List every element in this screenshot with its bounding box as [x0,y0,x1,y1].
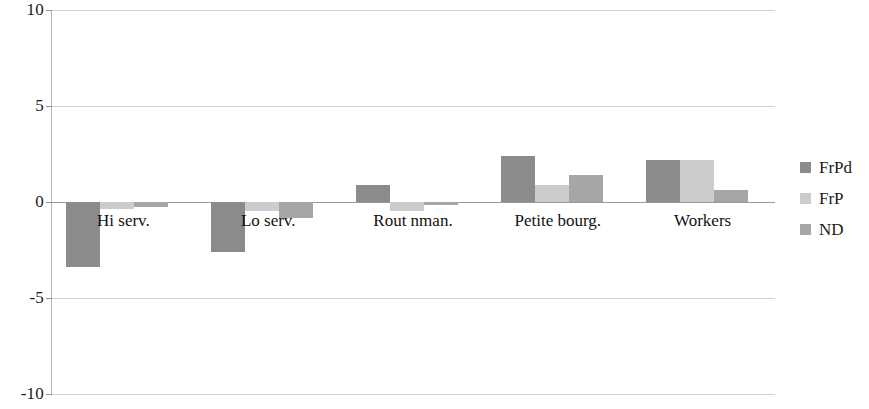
category-label: Rout nman. [341,212,486,230]
bar-group [356,10,458,394]
bar-frpd-4 [646,160,680,202]
legend: FrPdFrPND [800,152,869,245]
bar-nd-2 [424,202,458,205]
bar-group [501,10,603,394]
y-axis-tick [46,298,52,299]
bar-frp-0 [100,202,134,209]
y-axis-tick-label: 5 [2,97,44,114]
y-axis-tick-label: 10 [2,1,44,18]
bar-frp-2 [390,202,424,211]
bar-nd-3 [569,175,603,202]
y-axis-tick-label: -10 [2,385,44,402]
legend-swatch-icon [800,162,811,173]
bar-group [211,10,313,394]
bar-frpd-2 [356,185,390,202]
bar-frp-1 [245,202,279,211]
bar-group [646,10,748,394]
y-axis-tick-label: 0 [2,193,44,210]
bar-frp-3 [535,185,569,202]
gridline [51,394,775,395]
bar-group [66,10,168,394]
category-label: Lo serv. [196,212,341,230]
y-axis-tick [46,394,52,395]
legend-swatch-icon [800,224,811,235]
bar-nd-4 [714,190,748,202]
legend-swatch-icon [800,193,811,204]
legend-label: FrPd [819,159,852,176]
y-axis-tick-label: -5 [2,289,44,306]
bar-nd-0 [134,202,168,207]
bar-frpd-3 [501,156,535,202]
bar-chart: 1050-5-10 Hi serv.Lo serv.Rout nman.Peti… [0,0,869,409]
legend-label: ND [819,221,844,238]
y-axis-tick [46,106,52,107]
legend-label: FrP [819,190,844,207]
category-label: Hi serv. [51,212,196,230]
y-axis-labels: 1050-5-10 [0,0,44,409]
legend-item-frpd[interactable]: FrPd [800,152,869,183]
plot-area: Hi serv.Lo serv.Rout nman.Petite bourg.W… [51,10,775,394]
category-label: Petite bourg. [485,212,630,230]
legend-item-nd[interactable]: ND [800,214,869,245]
legend-item-frp[interactable]: FrP [800,183,869,214]
bar-frp-4 [680,160,714,202]
category-label: Workers [630,212,775,230]
y-axis-tick [46,10,52,11]
y-axis-tick [46,202,52,203]
